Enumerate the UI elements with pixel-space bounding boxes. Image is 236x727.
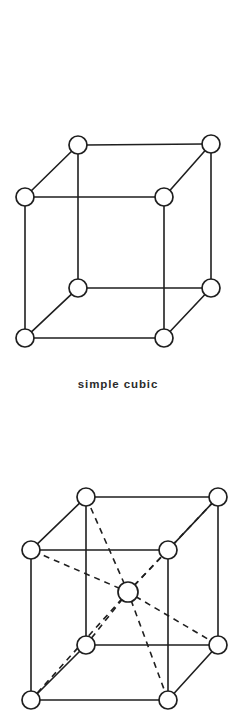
atom-back-bottom-left: [77, 636, 95, 654]
atom-front-bottom-left: [22, 691, 40, 709]
lattice-edge-solid: [37, 502, 81, 544]
atom-front-bottom-right: [159, 691, 177, 709]
simple-cubic-caption: simple cubic: [0, 378, 236, 390]
lattice-edge-solid: [169, 294, 205, 333]
atom-back-bottom-left: [69, 279, 87, 297]
atom-front-bottom-left: [16, 329, 34, 347]
atom-back-top-left: [77, 488, 95, 506]
lattice-edge-dashed: [89, 504, 124, 584]
body-centered-cubic-figure: [0, 420, 236, 727]
lattice-atoms: [16, 135, 220, 347]
lattice-edge-solid: [173, 651, 213, 694]
atom-front-top-left: [16, 188, 34, 206]
lattice-edge-dashed: [91, 599, 123, 639]
lattice-edge-solid: [37, 651, 81, 695]
lattice-edge-solid: [31, 150, 73, 191]
lattice-edge-dashed: [134, 556, 163, 586]
atom-back-top-left: [69, 136, 87, 154]
lattice-edge-solid: [86, 144, 203, 145]
atom-front-top-right: [155, 188, 173, 206]
atom-front-bottom-right: [155, 329, 173, 347]
lattice-edge-solid: [173, 503, 212, 545]
body-centered-cubic-diagram: [0, 420, 236, 727]
lattice-edge-solid: [169, 150, 206, 191]
atom-back-top-right: [209, 488, 227, 506]
lattice-edges: [25, 144, 211, 338]
atom-back-top-right: [202, 135, 220, 153]
simple-cubic-figure: [0, 0, 236, 364]
lattice-edge-dashed: [38, 553, 120, 588]
simple-cubic-diagram: [0, 0, 236, 364]
atom-back-bottom-right: [202, 279, 220, 297]
lattice-edge-dashed: [131, 600, 165, 692]
lattice-edge-dashed: [136, 596, 212, 641]
lattice-edge-solid: [31, 293, 73, 332]
atom-front-top-right: [159, 541, 177, 559]
atom-back-bottom-right: [209, 636, 227, 654]
atom-body-center: [118, 582, 138, 602]
lattice-figure-page: simple cubic: [0, 0, 236, 727]
atom-front-top-left: [22, 541, 40, 559]
